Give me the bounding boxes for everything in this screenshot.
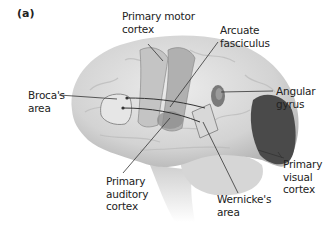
label-brocas-area: Broca's area [28, 89, 65, 114]
label-arcuate-fasciculus: Arcuate fasciculus [220, 24, 270, 49]
primary-auditory-cortex-region [157, 111, 183, 129]
label-primary-visual-cortex: Primary visual cortex [283, 158, 322, 196]
label-primary-auditory-cortex: Primary auditory cortex [106, 175, 148, 213]
label-wernickes-area: Wernicke's area [217, 193, 271, 218]
panel-label: (a) [17, 7, 34, 20]
label-primary-motor-cortex: Primary motor cortex [122, 10, 195, 35]
label-angular-gyrus: Angular gyrus [276, 85, 315, 110]
